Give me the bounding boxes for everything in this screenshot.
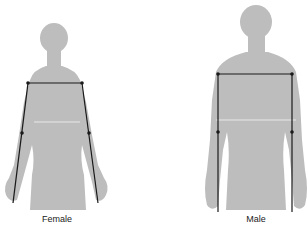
female-left-elbow-point (20, 131, 24, 135)
male-right-elbow-point (290, 130, 294, 134)
female-left-shoulder-point (26, 81, 30, 85)
male-label: Male (226, 214, 286, 224)
female-right-shoulder-point (80, 81, 84, 85)
female-silhouette (5, 23, 108, 210)
female-right-elbow-point (87, 131, 91, 135)
female-label: Female (27, 214, 87, 224)
male-left-elbow-point (216, 130, 220, 134)
male-left-shoulder-point (216, 72, 220, 76)
body-measurement-diagram (0, 0, 307, 229)
male-right-shoulder-point (290, 72, 294, 76)
